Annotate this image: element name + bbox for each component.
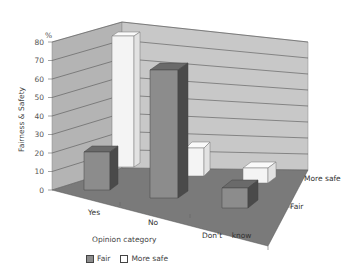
legend: Fair More safe — [86, 254, 168, 263]
category-label-no: No — [148, 218, 159, 227]
bar-no-fair — [150, 63, 188, 198]
y-tick-label: 80 — [34, 38, 44, 47]
y-tick-label: 60 — [34, 75, 44, 84]
legend-label-more-safe: More safe — [131, 254, 168, 263]
fair-swatch-icon — [86, 255, 94, 263]
legend-item-fair: Fair — [86, 254, 110, 263]
bar-yes-fair — [84, 146, 118, 190]
y-unit-label: % — [45, 31, 52, 40]
y-axis-title: Fairness & Safety — [17, 86, 26, 152]
y-tick-label: 70 — [34, 56, 44, 65]
legend-item-more-safe: More safe — [120, 254, 168, 263]
depth-label-more-safe: More safe — [304, 174, 341, 183]
y-tick-label: 30 — [34, 130, 44, 139]
more-safe-swatch-icon — [120, 255, 128, 263]
y-tick-label: 0 — [39, 186, 44, 195]
y-tick-label: 20 — [34, 149, 44, 158]
bar-chart-3d: 01020304050607080 % Fairness & Safety — [0, 0, 357, 272]
y-tick-label: 10 — [34, 167, 44, 176]
x-axis-title: Opinion category — [92, 235, 157, 244]
legend-label-fair: Fair — [97, 254, 110, 263]
bar-no-more-safe — [186, 142, 210, 176]
y-axis-ticks: 01020304050607080 — [34, 38, 52, 195]
bar-dk-fair — [222, 180, 258, 208]
y-tick-label: 40 — [34, 112, 44, 121]
category-label-yes: Yes — [87, 208, 100, 217]
y-tick-label: 50 — [34, 93, 44, 102]
depth-label-fair: Fair — [290, 202, 304, 211]
category-label-dont-know: Don't know — [202, 231, 251, 240]
